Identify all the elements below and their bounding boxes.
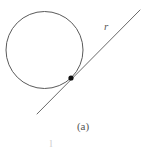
geometry-figure: r (a) l (0, 0, 166, 153)
tangent-line-shape (37, 10, 140, 114)
tangent-point-dot (68, 75, 73, 80)
figure-caption: (a) (0, 121, 166, 132)
tangent-line-label: r (104, 21, 108, 32)
stray-text-mark: l (0, 138, 134, 149)
